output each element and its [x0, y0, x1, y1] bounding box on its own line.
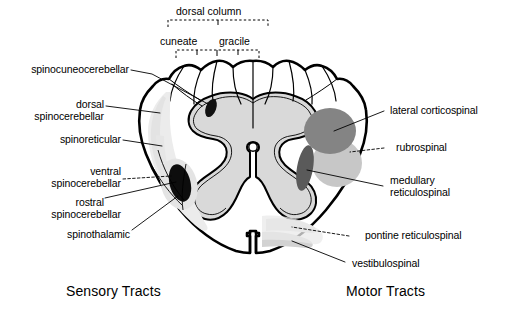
label-spinoreticular: spinoreticular	[0, 134, 121, 146]
label-spinocuneocerebellar: spinocuneocerebellar	[0, 64, 129, 76]
label-medullary-reticulospinal-line2: reticulospinal	[390, 187, 450, 199]
cuneate-gracile-bracket	[176, 50, 259, 58]
label-medullary-reticulospinal-line1: medullary	[390, 175, 435, 187]
section-title-sensory-tracts: Sensory Tracts	[66, 283, 161, 299]
label-rubrospinal: rubrospinal	[396, 142, 447, 154]
central-canal	[249, 143, 257, 151]
label-spinothalamic: spinothalamic	[0, 229, 130, 241]
label-dorsal-spinocerebellar-line1: dorsal	[0, 99, 104, 111]
tract-lateral-corticospinal	[304, 108, 356, 154]
leader-vestibulospinal	[292, 241, 345, 262]
bracket-label-gracile: gracile	[219, 35, 250, 47]
label-rostral-spinocerebellar-line2: spinocerebellar	[0, 209, 121, 221]
label-ventral-spinocerebellar-line2: spinocerebellar	[0, 178, 121, 190]
bracket-label-cuneate: cuneate	[160, 35, 197, 47]
label-ventral-spinocerebellar-line1: ventral	[0, 166, 121, 178]
label-vestibulospinal: vestibulospinal	[352, 258, 419, 270]
bracket-label-dorsal-column: dorsal column	[176, 5, 241, 17]
ventral-median-fissure	[250, 231, 256, 253]
spinal-cord-illustration	[0, 0, 506, 317]
label-rostral-spinocerebellar-line1: rostral	[0, 197, 104, 209]
spinal-cord-tract-diagram: dorsal column cuneate gracile spinocuneo…	[0, 0, 506, 317]
label-dorsal-spinocerebellar-line2: spinocerebellar	[0, 111, 104, 123]
section-title-motor-tracts: Motor Tracts	[346, 283, 425, 299]
dorsal-column-bracket	[168, 20, 268, 27]
label-pontine-reticulospinal: pontine reticulospinal	[365, 230, 461, 242]
leader-spinothalamic	[132, 196, 178, 230]
label-lateral-corticospinal: lateral corticospinal	[390, 105, 478, 117]
